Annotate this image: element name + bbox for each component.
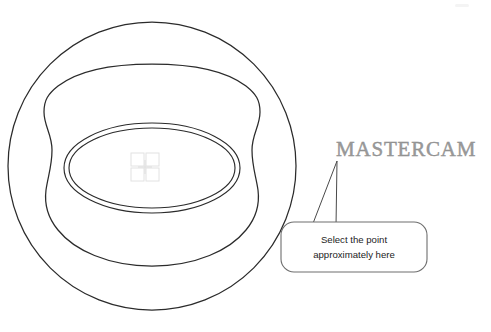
callout-line-2: approximately here — [313, 249, 395, 260]
mastercam-brand-label: MASTERCAM — [336, 139, 476, 160]
point-marker-grid-cell-tl — [131, 153, 144, 166]
inner-squircle-outline — [44, 64, 260, 266]
point-marker-grid-cell-tr — [146, 153, 159, 166]
technical-drawing: Select the point approximately here — [0, 0, 491, 332]
point-marker-crosshair — [138, 160, 152, 174]
callout-line-1: Select the point — [321, 234, 387, 245]
point-marker-grid-cell-bl — [131, 168, 144, 181]
callout-box[interactable] — [281, 222, 427, 272]
point-marker-grid-cell-br — [146, 168, 159, 181]
screenshot-root: Select the point approximately here MAST… — [0, 0, 491, 332]
callout-tail — [312, 161, 337, 226]
selection-point-marker[interactable] — [131, 153, 159, 181]
scan-artifact-speck — [455, 4, 469, 7]
